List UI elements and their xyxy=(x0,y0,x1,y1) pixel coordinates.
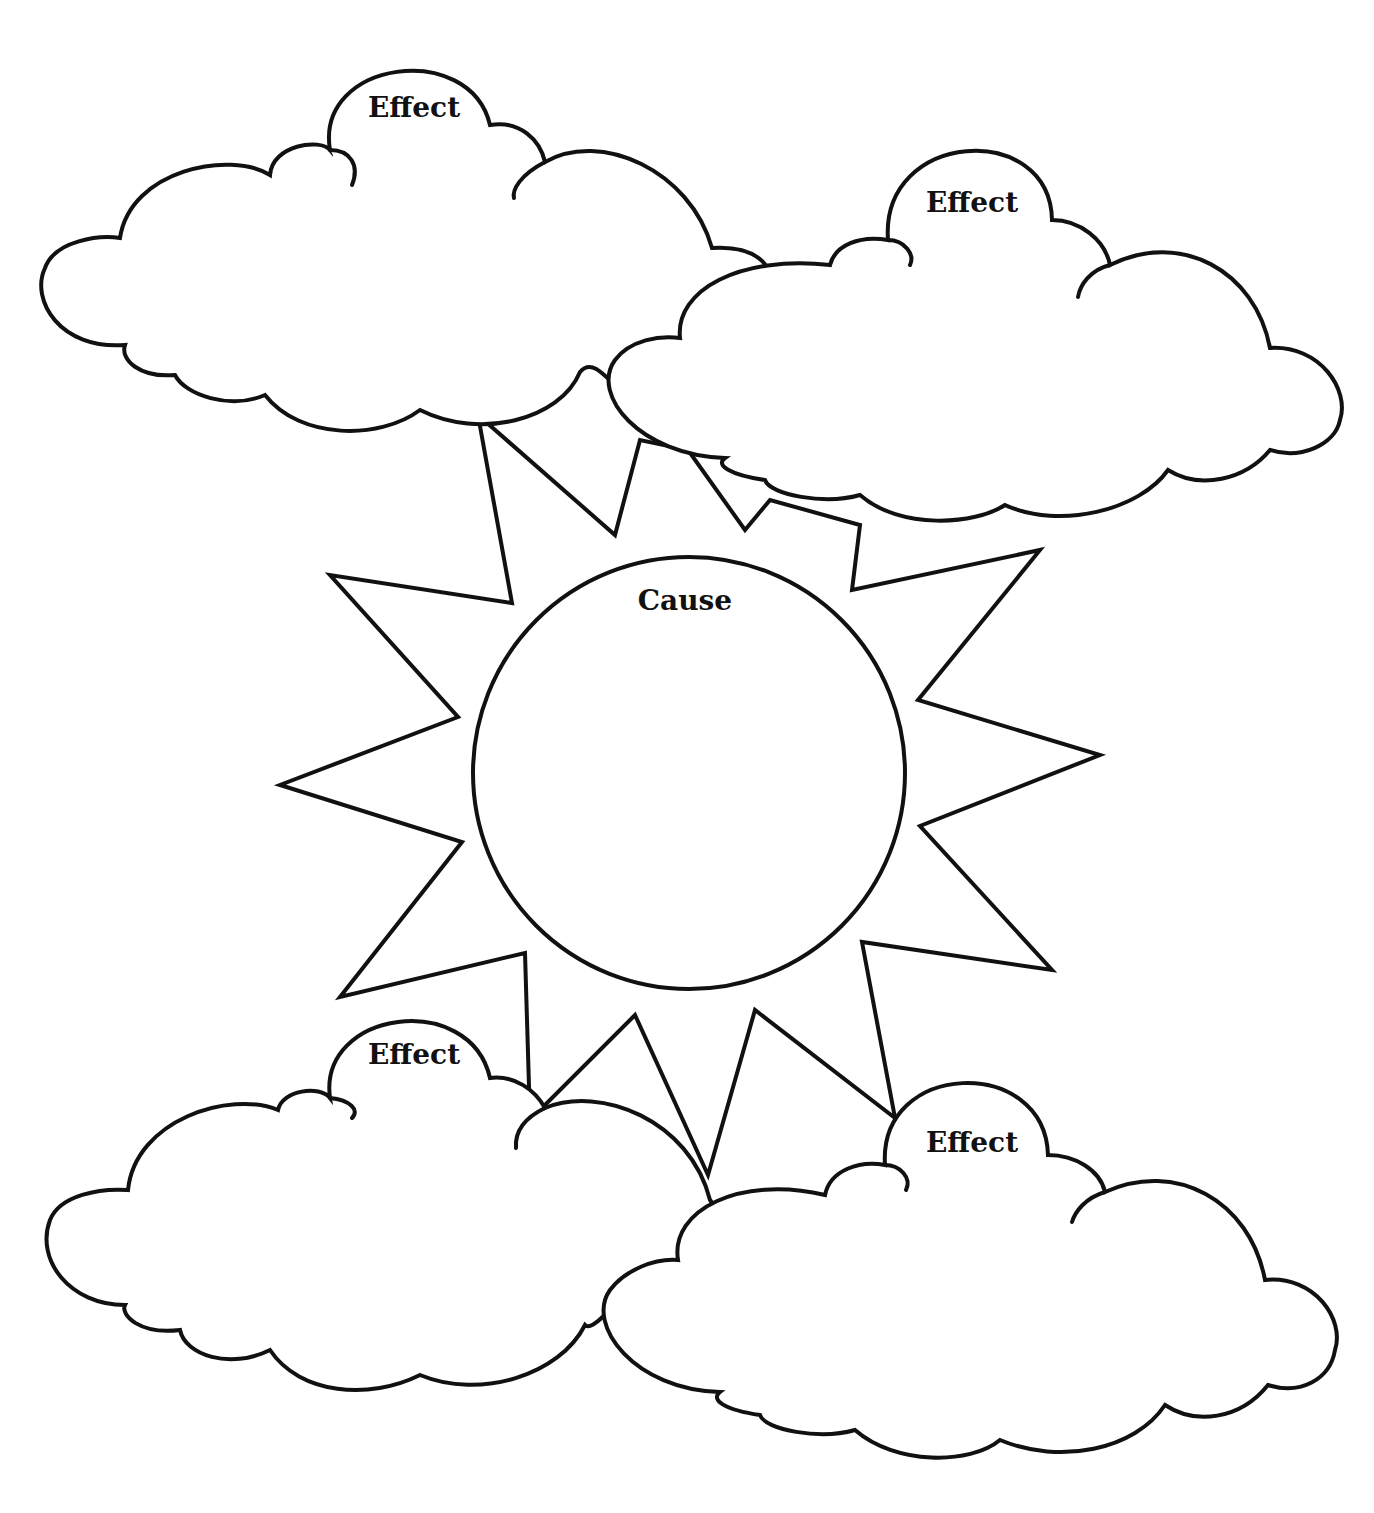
effect-cloud-2: Effect xyxy=(609,151,1342,521)
effect-label-4: Effect xyxy=(926,1126,1018,1159)
cause-effect-organizer: Cause Effect Effect Effect Effect xyxy=(0,0,1374,1513)
effect-label-1: Effect xyxy=(368,91,460,124)
effect-label-2: Effect xyxy=(926,186,1018,219)
cause-label: Cause xyxy=(638,584,732,617)
effect-label-3: Effect xyxy=(368,1038,460,1071)
cause-circle xyxy=(473,557,905,989)
